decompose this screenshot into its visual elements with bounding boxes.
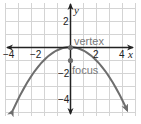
x-tick-2: 2 <box>93 49 99 60</box>
y-tick-neg4: −4 <box>58 94 70 105</box>
x-tick-4: 4 <box>119 49 125 60</box>
parabola-graph: −4 −2 2 4 2 −2 −4 x y vertex focus <box>0 0 141 124</box>
vertex-label: vertex <box>74 35 104 47</box>
x-axis-label: x <box>127 48 133 60</box>
y-tick-2: 2 <box>63 16 69 27</box>
x-tick-neg4: −4 <box>3 49 15 60</box>
focus-label: focus <box>72 64 99 76</box>
x-tick-neg2: −2 <box>30 49 42 60</box>
focus-point <box>68 58 73 63</box>
y-axis-label: y <box>73 4 79 16</box>
vertex-point <box>68 45 73 50</box>
y-tick-neg2: −2 <box>58 68 70 79</box>
